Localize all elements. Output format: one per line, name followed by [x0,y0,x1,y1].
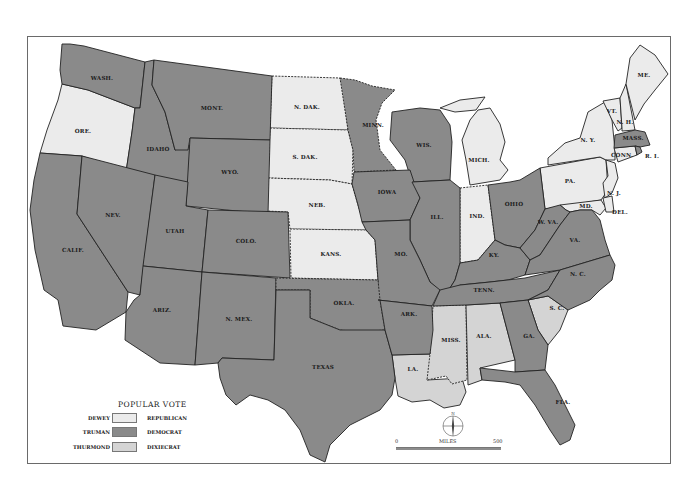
label-ri: R. I. [645,153,659,159]
label-nmex: N. MEX. [226,316,253,322]
label-la: LA. [408,366,419,372]
label-utah: UTAH [165,228,185,234]
label-ind: IND. [469,213,484,219]
legend-swatch-republican [112,413,137,423]
label-wyo: WYO. [220,169,239,175]
state-miss[interactable] [427,305,467,384]
label-wva: W. VA. [537,219,559,225]
label-nj: N. J. [607,190,621,197]
label-vt: VT. [606,108,617,114]
scale-bar-line [396,447,501,450]
label-nc: N. C. [570,271,586,277]
label-pa: PA. [565,178,576,184]
label-conn: CONN. [611,152,633,158]
legend: POPULAR VOTE DEWEY REPUBLICAN TRUMAN DEM… [60,400,230,460]
label-sdak: S. DAK. [292,154,317,160]
label-nev: NEV. [105,212,121,218]
label-ohio: OHIO [505,201,523,207]
legend-title: POPULAR VOTE [118,400,187,409]
state-ny[interactable] [548,102,615,165]
label-mont: MONT. [201,105,224,111]
legend-candidate: TRUMAN [83,429,110,435]
compass-north-label: N [451,411,455,416]
legend-row-republican: DEWEY REPUBLICAN [60,413,230,423]
legend-row-dixiecrat: THURMOND DIXIECRAT [60,442,230,452]
label-kans: KANS. [321,251,342,257]
state-me[interactable] [626,45,668,120]
scale-start: 0 [395,438,398,444]
label-texas: TEXAS [312,364,334,370]
label-nh: N. H. [617,119,634,125]
label-calif: CALIF. [62,247,84,253]
label-del: DEL. [612,209,628,215]
label-mich: MICH. [468,157,490,163]
label-fla: FLA. [556,399,571,405]
label-miss: MISS. [441,337,461,343]
legend-party: DIXIECRAT [147,444,180,450]
label-ala: ALA. [475,333,491,339]
label-minn: MINN. [362,122,384,128]
label-tenn: TENN. [473,287,494,293]
label-ndak: N. DAK. [294,104,320,110]
label-okla: OKLA. [334,300,355,306]
state-wyo[interactable] [186,138,270,214]
label-ore: ORE. [75,128,92,134]
scale-unit: MILES [439,438,457,444]
label-wis: WIS. [415,142,432,148]
label-idaho: IDAHO [147,146,170,152]
compass-rose-icon: N [440,411,466,439]
label-ariz: ARIZ. [152,307,172,313]
label-ny: N. Y. [581,137,596,143]
scale-bar: 0 MILES 500 [393,438,508,454]
legend-party: REPUBLICAN [147,415,187,421]
label-neb: NEB. [309,202,326,208]
legend-swatch-democrat [112,427,137,437]
state-colo[interactable] [202,210,290,278]
state-iowa[interactable] [352,170,420,222]
scale-end: 500 [493,438,503,444]
label-ill: ILL. [430,214,443,220]
label-va: VA. [569,237,581,243]
legend-row-democrat: TRUMAN DEMOCRAT [60,427,230,437]
legend-candidate: THURMOND [73,444,110,450]
state-fla[interactable] [480,368,575,445]
label-colo: COLO. [236,238,257,244]
label-ga: GA. [523,333,535,339]
label-ky: KY. [489,252,500,258]
legend-party: DEMOCRAT [147,429,182,435]
label-mo: MO. [394,251,407,257]
label-ark: ARK. [400,311,418,317]
label-md: MD. [579,203,592,209]
state-ndak[interactable] [270,76,348,130]
label-mass: MASS. [622,135,643,141]
label-iowa: IOWA [378,189,397,195]
label-wash: WASH. [90,75,114,81]
label-me: ME. [637,72,650,78]
legend-swatch-dixiecrat [112,442,137,452]
legend-candidate: DEWEY [88,415,110,421]
label-sc: S. C. [549,305,564,311]
